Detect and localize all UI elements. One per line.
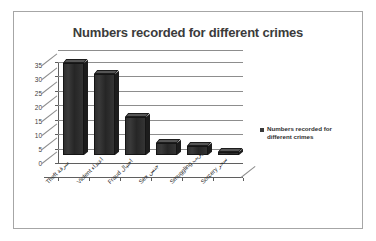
bar-sorcery-top-face (218, 148, 242, 152)
bar-sex-front-face (156, 143, 177, 155)
y-tick-label-35: 35 (28, 62, 42, 69)
bar-sorcery[interactable] (218, 152, 239, 155)
bar-violent-top-face (94, 70, 118, 74)
y-tick-label-25: 25 (28, 90, 42, 97)
bar-fraud-front-face (125, 117, 146, 155)
bar-violent-side-face (115, 71, 119, 155)
value-axis-tick-25 (55, 91, 58, 92)
bar-theft-side-face (84, 60, 88, 155)
bar-smuggling-top-face (187, 142, 211, 146)
bar-fraud-side-face (146, 114, 150, 155)
floor-right-edge (241, 166, 256, 178)
bar-sex-top-face (156, 139, 180, 143)
bar-sorcery-front-face (218, 152, 239, 155)
chart-back-wall-top-edge (58, 50, 243, 51)
y-tick-label-5: 5 (28, 146, 42, 153)
value-axis-tick-10 (55, 134, 58, 135)
plot-inner-area (58, 62, 259, 164)
chart-legend[interactable]: Numbers recorded for different crimes (260, 125, 358, 141)
chart-title: Numbers recorded for different crimes (14, 25, 362, 40)
axis-riser-25 (42, 81, 58, 93)
bar-theft[interactable] (63, 63, 84, 155)
value-axis-tick-15 (55, 120, 58, 121)
value-axis-tick-5 (55, 149, 58, 150)
y-tick-label-0: 0 (28, 160, 42, 167)
category-axis-labels: Theft سرقة Violent اعتداء Fraud احتيال S… (44, 180, 274, 228)
value-axis-tick-35 (55, 62, 58, 63)
bar-violent[interactable] (94, 74, 115, 155)
axis-riser-30 (42, 67, 58, 79)
bar-fraud-top-face (125, 113, 149, 117)
legend-item-label: Numbers recorded for different crimes (267, 125, 358, 141)
bar-fraud[interactable] (125, 117, 146, 155)
bar-sex[interactable] (156, 143, 177, 155)
value-axis-tick-30 (55, 76, 58, 77)
y-tick-label-15: 15 (28, 118, 42, 125)
chart-figure-frame: Numbers recorded for different crimes 0 … (13, 11, 363, 229)
y-tick-label-10: 10 (28, 132, 42, 139)
value-axis-tick-20 (55, 105, 58, 106)
bar-violent-front-face (94, 74, 115, 155)
bar-theft-front-face (63, 63, 84, 155)
axis-riser-35 (42, 53, 58, 65)
axis-riser-20 (42, 95, 58, 107)
y-tick-label-30: 30 (28, 76, 42, 83)
square-marker-icon (260, 128, 264, 132)
bar-theft-top-face (63, 59, 87, 63)
y-tick-label-20: 20 (28, 104, 42, 111)
